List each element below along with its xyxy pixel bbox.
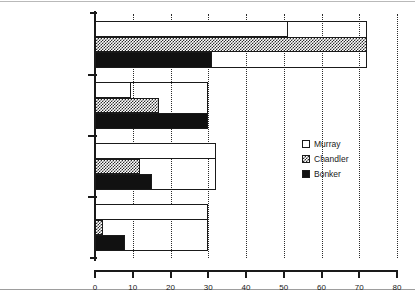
legend-swatch-chandler-icon bbox=[302, 155, 310, 163]
x-axis-tick-label: 50 bbox=[279, 283, 288, 292]
bar-murray-female-in-state bbox=[95, 143, 216, 159]
x-axis-tick-label: 20 bbox=[166, 283, 175, 292]
y-axis-tick bbox=[88, 196, 97, 198]
bar-bonker-male-out-of-state bbox=[95, 113, 208, 129]
x-axis-tick-label: 10 bbox=[128, 283, 137, 292]
legend-label: Chandler bbox=[314, 154, 349, 164]
x-axis-tick bbox=[396, 271, 398, 278]
legend-item-bonker[interactable]: Bonker bbox=[302, 166, 349, 181]
figure-top-rule bbox=[0, 1, 415, 2]
legend-item-chandler[interactable]: Chandler bbox=[302, 151, 349, 166]
plot-area: 01020304050607080 Male In StateMale Out … bbox=[95, 14, 397, 258]
bar-chandler-female-out-of-state bbox=[95, 220, 103, 236]
figure: 01020304050607080 Male In StateMale Out … bbox=[0, 0, 415, 298]
bar-murray-male-in-state bbox=[95, 21, 288, 37]
bar-chandler-male-out-of-state bbox=[95, 98, 159, 114]
y-axis-tick bbox=[88, 74, 97, 76]
legend-item-murray[interactable]: Murray bbox=[302, 136, 349, 151]
x-axis-tick bbox=[245, 271, 247, 278]
x-axis-tick bbox=[170, 271, 172, 278]
legend: MurrayChandlerBonker bbox=[302, 136, 349, 181]
x-axis-tick bbox=[321, 271, 323, 278]
x-axis-tick-label: 80 bbox=[393, 283, 402, 292]
x-axis-tick-label: 0 bbox=[93, 283, 97, 292]
legend-label: Murray bbox=[314, 139, 340, 149]
x-axis-tick bbox=[283, 271, 285, 278]
bar-chandler-female-in-state bbox=[95, 159, 140, 175]
x-axis-tick-label: 60 bbox=[317, 283, 326, 292]
x-axis-tick-label: 30 bbox=[204, 283, 213, 292]
bar-bonker-female-in-state bbox=[95, 174, 152, 190]
x-axis-tick-label: 70 bbox=[355, 283, 364, 292]
legend-label: Bonker bbox=[314, 169, 341, 179]
x-axis-tick bbox=[132, 271, 134, 278]
x-axis-tick-label: 40 bbox=[242, 283, 251, 292]
bar-murray-male-out-of-state bbox=[95, 82, 131, 98]
bar-bonker-male-in-state bbox=[95, 52, 212, 68]
y-axis-tick bbox=[90, 12, 97, 14]
x-axis-tick bbox=[94, 271, 96, 278]
bar-bonker-female-out-of-state bbox=[95, 235, 125, 251]
legend-swatch-bonker-icon bbox=[302, 170, 310, 178]
y-axis-tick bbox=[90, 257, 97, 259]
bar-murray-female-out-of-state bbox=[95, 204, 208, 220]
x-axis-tick bbox=[207, 271, 209, 278]
bar-chandler-male-in-state bbox=[95, 37, 367, 53]
gridline-80 bbox=[397, 14, 398, 258]
x-axis-tick bbox=[358, 271, 360, 278]
legend-swatch-murray-icon bbox=[302, 140, 310, 148]
y-axis-tick bbox=[88, 135, 97, 137]
